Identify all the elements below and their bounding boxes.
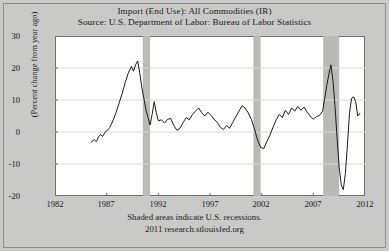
chart-svg bbox=[55, 36, 365, 196]
axis-ticks bbox=[55, 36, 313, 196]
x-tick-2012: 2012 bbox=[343, 199, 387, 209]
x-tick-1997: 1997 bbox=[188, 199, 232, 209]
chart-subtitle: Source: U.S. Department of Labor: Bureau… bbox=[0, 17, 389, 27]
x-tick-1987: 1987 bbox=[84, 199, 128, 209]
chart-title: Import (End Use): All Commodities (IR) bbox=[0, 6, 389, 16]
plot-area bbox=[55, 36, 365, 196]
attribution: 2011 research.stlouisfed.org bbox=[0, 224, 389, 234]
y-tick-neg20: -20 bbox=[0, 191, 20, 201]
data-line-import-all-commodities bbox=[91, 61, 360, 190]
y-tick-30: 30 bbox=[0, 31, 20, 41]
y-tick-neg10: -10 bbox=[0, 159, 20, 169]
y-tick-0: 0 bbox=[0, 127, 20, 137]
x-tick-2002: 2002 bbox=[239, 199, 283, 209]
recession-band bbox=[143, 36, 150, 196]
x-tick-1992: 1992 bbox=[136, 199, 180, 209]
recession-note: Shaded areas indicate U.S. recessions. bbox=[0, 212, 389, 222]
y-tick-10: 10 bbox=[0, 95, 20, 105]
x-tick-2007: 2007 bbox=[291, 199, 335, 209]
chart-frame: Import (End Use): All Commodities (IR) S… bbox=[0, 0, 389, 251]
y-tick-20: 20 bbox=[0, 63, 20, 73]
recession-band bbox=[323, 36, 339, 196]
recession-band bbox=[253, 36, 260, 196]
y-axis-label: (Percent change from year ago) bbox=[30, 0, 39, 145]
x-tick-1982: 1982 bbox=[33, 199, 77, 209]
